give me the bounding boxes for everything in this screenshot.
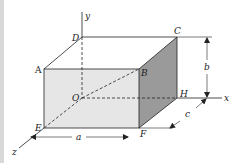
vertex-F-label: F	[139, 129, 147, 139]
vertex-A-label: A	[34, 65, 42, 75]
vertex-D-label: D	[71, 33, 79, 43]
c-dimension-line-top	[196, 99, 206, 108]
vertex-C-label: C	[174, 26, 181, 36]
front-face	[44, 69, 139, 128]
vertex-B-label: B	[140, 68, 148, 78]
side-face	[139, 37, 177, 128]
z-axis-label: z	[11, 147, 17, 157]
vertex-H-label: H	[179, 89, 188, 99]
vertex-E-label: E	[34, 123, 42, 133]
vertex-O-label: O	[72, 93, 80, 103]
y-axis-label: y	[84, 11, 91, 21]
x-axis-label: x	[224, 93, 229, 103]
box-diagram: y x z D C A B O H E F a b c	[0, 0, 237, 163]
dimension-b-label: b	[204, 62, 210, 72]
dimension-c-label: c	[185, 109, 190, 119]
c-dimension-line-bottom	[170, 121, 180, 128]
dimension-a-label: a	[76, 132, 81, 142]
